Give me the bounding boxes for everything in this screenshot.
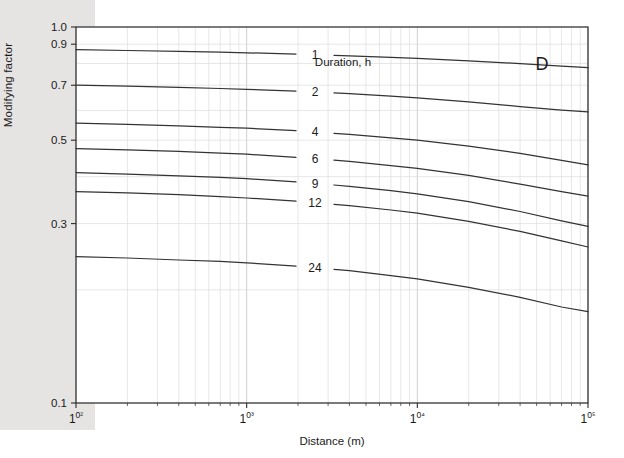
y-tick-label: 0.5: [51, 134, 67, 146]
curve-label: 24: [308, 261, 322, 275]
curve-label: 2: [312, 85, 319, 99]
x-axis-title: Distance (m): [299, 435, 364, 447]
panel-letter: D: [536, 54, 549, 74]
curve-label: 12: [308, 196, 322, 210]
y-tick-label: 0.1: [51, 397, 67, 409]
x-tick-label: 10³: [240, 410, 254, 426]
y-tick-label: 0.7: [51, 79, 67, 91]
curve-label: 6: [312, 152, 319, 166]
x-tick-label: 10⁴: [410, 410, 425, 426]
y-tick-label: 0.3: [51, 218, 67, 230]
legend-title: Duration, h: [315, 56, 371, 68]
plot-background: [76, 27, 588, 403]
x-tick-label: 10⁵: [581, 410, 596, 426]
curve-label: 9: [312, 177, 319, 191]
curve-label: 4: [312, 125, 319, 139]
chart-figure: 0.10.30.50.70.91.010²10³10⁴10⁵Distance (…: [0, 0, 624, 458]
y-tick-label: 1.0: [51, 21, 67, 33]
y-tick-label: 0.9: [51, 38, 67, 50]
y-axis-title: Modifying factor: [2, 20, 14, 150]
